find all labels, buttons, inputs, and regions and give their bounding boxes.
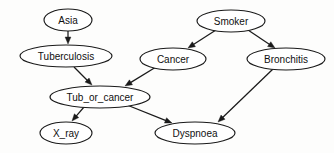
edge-asia-to-tuberculosis [65,31,71,44]
node-label-cancer: Cancer [157,54,190,65]
edge-tuberculosis-to-tub_or_cancer [74,67,92,85]
node-tuberculosis[interactable]: Tuberculosis [20,45,112,67]
graph-canvas: AsiaTuberculosisSmokerCancerBronchitisTu… [0,0,334,153]
bayesian-network-diagram: AsiaTuberculosisSmokerCancerBronchitisTu… [0,0,334,153]
node-label-tub_or_cancer: Tub_or_cancer [67,92,135,103]
node-label-smoker: Smoker [214,16,249,27]
edge-shaft [130,67,156,83]
edge-shaft [127,105,166,121]
node-dyspnoea[interactable]: Dyspnoea [155,122,235,144]
edges-layer [65,30,275,123]
arrowhead-icon [268,42,275,48]
edge-smoker-to-cancer [188,30,216,48]
edge-tub_or_cancer-to-x_ray [72,107,84,121]
arrowhead-icon [65,37,71,44]
edge-shaft [248,30,270,44]
node-asia[interactable]: Asia [44,9,92,31]
node-label-dyspnoea: Dyspnoea [172,128,217,139]
node-label-tuberculosis: Tuberculosis [38,51,94,62]
node-tub_or_cancer[interactable]: Tub_or_cancer [50,86,150,108]
edge-smoker-to-bronchitis [248,30,275,48]
nodes-layer: AsiaTuberculosisSmokerCancerBronchitisTu… [20,9,325,144]
node-label-bronchitis: Bronchitis [264,54,308,65]
node-x_ray[interactable]: X_ray [40,122,92,144]
edge-shaft [74,67,87,80]
edge-cancer-to-tub_or_cancer [125,67,156,86]
edge-bronchitis-to-dyspnoea [218,69,273,122]
edge-shaft [223,69,273,118]
edge-tub_or_cancer-to-dyspnoea [127,105,172,123]
arrowhead-icon [164,118,172,123]
edge-shaft [193,30,216,45]
edge-shaft [76,107,84,116]
node-smoker[interactable]: Smoker [197,10,265,32]
arrowhead-icon [188,42,195,48]
node-bronchitis[interactable]: Bronchitis [247,48,325,70]
node-cancer[interactable]: Cancer [140,48,206,70]
arrowhead-icon [125,80,132,86]
node-label-x_ray: X_ray [53,128,79,139]
node-label-asia: Asia [58,15,78,26]
